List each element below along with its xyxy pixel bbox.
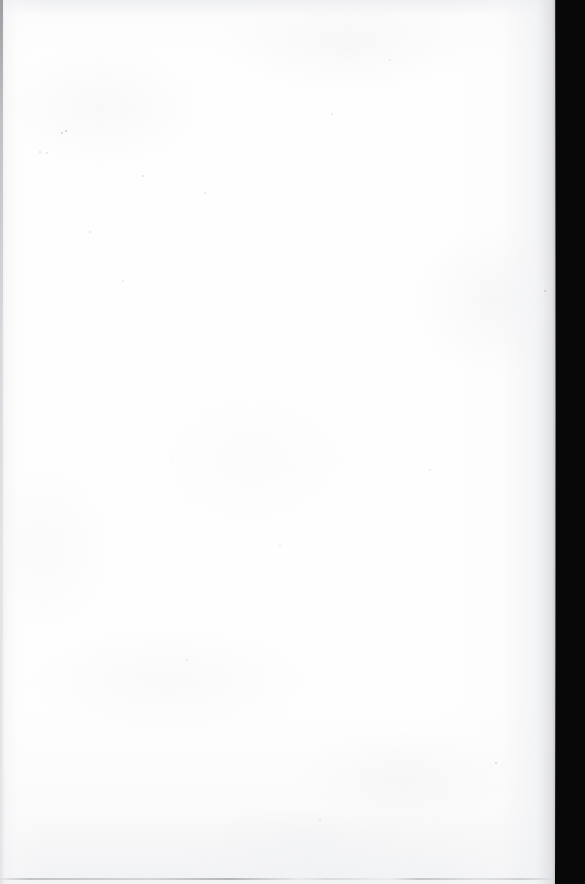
- dust-speck: [46, 152, 47, 153]
- dust-speck: [89, 231, 90, 232]
- paper-vertical-shading: [0, 0, 561, 884]
- dust-speck: [204, 192, 205, 193]
- scanner-backdrop: [555, 0, 585, 884]
- paper-horizontal-shading: [0, 0, 561, 884]
- dust-speck: [186, 659, 187, 660]
- dust-speck: [331, 113, 332, 114]
- dust-speck: [544, 290, 546, 292]
- paper-grain-texture: [0, 0, 561, 884]
- dust-speck: [495, 762, 497, 764]
- dust-speck: [122, 280, 123, 281]
- dust-speck: [61, 132, 62, 133]
- dust-speck: [429, 469, 430, 470]
- dust-speck: [279, 545, 280, 546]
- left-edge-rule: [0, 0, 3, 884]
- dust-speck: [65, 130, 67, 132]
- dust-speck: [389, 59, 390, 60]
- dust-speck: [142, 175, 144, 177]
- scanned-page: [0, 0, 585, 884]
- dust-speck: [39, 151, 41, 153]
- dust-speck: [319, 819, 320, 820]
- page-sheet: [0, 0, 561, 884]
- bottom-edge-rule: [0, 878, 561, 880]
